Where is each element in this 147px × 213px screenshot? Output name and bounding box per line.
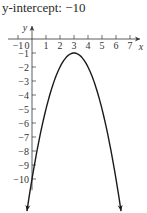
y-tick-label: −3	[18, 76, 29, 87]
x-tick-label: 3	[72, 40, 77, 51]
parabola-chart: yx−101234567−1−2−3−4−5−6−7−8−9−10	[0, 0, 147, 213]
y-tick-label: −8	[18, 146, 29, 157]
y-tick-label: −5	[18, 104, 29, 115]
x-tick-label: 1	[44, 40, 49, 51]
x-tick-label: 6	[114, 40, 119, 51]
y-tick-label: −2	[18, 62, 29, 73]
x-tick-label: 5	[100, 40, 105, 51]
y-tick-label: −7	[18, 132, 29, 143]
x-tick-label: 7	[128, 40, 133, 51]
y-axis-label: y	[22, 22, 28, 33]
y-tick-label: −1	[18, 48, 29, 59]
x-tick-label: 2	[58, 40, 63, 51]
y-tick-label: −10	[13, 174, 29, 185]
y-tick-label: −6	[18, 118, 29, 129]
x-axis-label: x	[138, 41, 144, 52]
x-tick-label: 4	[86, 40, 91, 51]
parabola-curve	[27, 53, 121, 211]
y-tick-label: −9	[18, 160, 29, 171]
y-tick-label: −4	[18, 90, 29, 101]
